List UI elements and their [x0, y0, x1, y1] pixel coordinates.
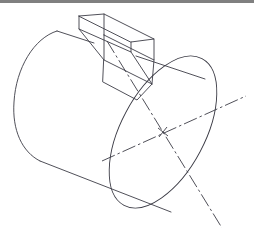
far-end-cap-arc [14, 31, 57, 161]
keyway-slot-outline [103, 60, 152, 100]
figure-root [0, 0, 254, 237]
minor-axis-centerline [102, 96, 246, 161]
key-top-face [79, 14, 154, 42]
major-axis-centerline [107, 41, 222, 228]
key-rear-lower-edge [152, 60, 154, 84]
isometric-drawing-canvas [0, 0, 254, 237]
